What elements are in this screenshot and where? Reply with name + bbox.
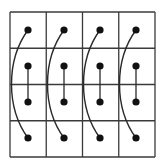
- grid-diagram: [0, 0, 159, 166]
- node-dot: [96, 134, 103, 141]
- node-dot: [132, 26, 139, 33]
- node-dot: [60, 134, 67, 141]
- node-dot: [96, 98, 103, 105]
- node-dot: [132, 98, 139, 105]
- node-dot: [24, 134, 31, 141]
- node-dot: [24, 98, 31, 105]
- node-dot: [24, 26, 31, 33]
- node-dot: [60, 62, 67, 69]
- node-dot: [96, 26, 103, 33]
- node-dot: [24, 62, 31, 69]
- node-dot: [132, 134, 139, 141]
- node-dot: [96, 62, 103, 69]
- node-dot: [60, 98, 67, 105]
- node-dot: [132, 62, 139, 69]
- node-dot: [60, 26, 67, 33]
